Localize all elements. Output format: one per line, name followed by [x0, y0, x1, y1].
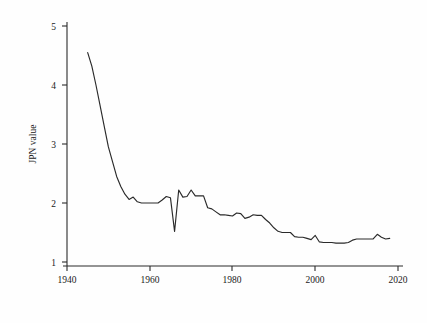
line-chart: 5 4 3 2 1 1940 1960 1980 2000 2020 JPN v…: [0, 0, 427, 323]
y-tick-label-4: 4: [51, 81, 56, 91]
y-tick-label-1: 1: [51, 258, 56, 268]
y-tick-label-5: 5: [51, 22, 56, 32]
x-tick-label-1940: 1940: [58, 275, 77, 285]
y-axis-title: JPN value: [28, 125, 38, 164]
x-tick-label-1980: 1980: [223, 275, 242, 285]
x-tick-label-2000: 2000: [306, 275, 325, 285]
x-tick-label-1960: 1960: [141, 275, 160, 285]
x-tick-label-2020: 2020: [389, 275, 408, 285]
y-tick-label-3: 3: [51, 140, 56, 150]
figure-container: 5 4 3 2 1 1940 1960 1980 2000 2020 JPN v…: [0, 0, 427, 323]
y-tick-label-2: 2: [51, 199, 56, 209]
